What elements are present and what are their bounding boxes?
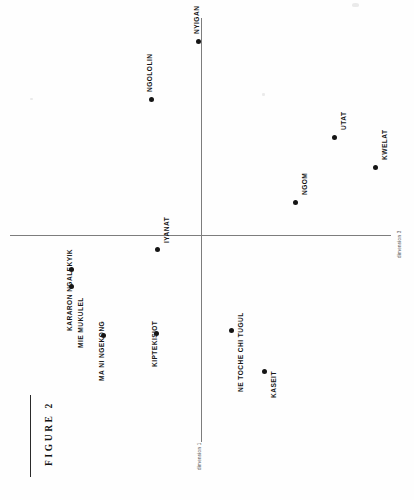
x-axis-label: dimension 3	[397, 230, 402, 258]
figure-page: dimension 3 dimension 1 NYIGANNGOLOLINUT…	[0, 0, 414, 500]
data-point-label: UTAT	[340, 112, 347, 130]
data-point	[196, 39, 201, 44]
y-axis-line	[201, 18, 202, 442]
data-point	[155, 247, 160, 252]
data-point	[229, 328, 234, 333]
y-axis-label: dimension 1	[197, 442, 202, 470]
data-point	[149, 97, 154, 102]
scan-speck	[352, 3, 359, 7]
data-point-label: MA NI NGEKONG	[98, 321, 105, 381]
data-point-label: KIPTEKISIOT	[151, 321, 158, 367]
data-point	[262, 369, 267, 374]
data-point-label: NYIGAN	[193, 6, 200, 34]
data-point-label: NE TOCHE CHI TUGUL	[237, 312, 244, 392]
data-point-label: KARARON NGALEKYIK	[66, 249, 73, 331]
page-title: FIGURE 2	[44, 401, 54, 466]
caption-rule	[30, 395, 31, 477]
data-point-label: MIE MUKULEL	[77, 297, 84, 348]
data-point	[332, 135, 337, 140]
scan-speck	[262, 93, 265, 96]
data-point-label: NGOM	[301, 173, 308, 195]
data-point	[293, 200, 298, 205]
data-point-label: KWELAT	[381, 130, 388, 160]
data-point	[373, 165, 378, 170]
data-point-label: KASEIT	[270, 371, 277, 398]
data-point-label: IYANAT	[163, 217, 170, 243]
data-point-label: NGOLOLIN	[146, 54, 153, 92]
scan-speck	[30, 98, 33, 100]
